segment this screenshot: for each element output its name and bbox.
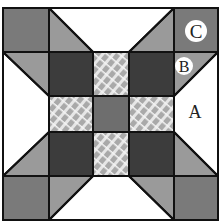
label-a: A	[189, 102, 202, 122]
plaid-square-left	[49, 96, 93, 132]
dark-square-tr	[129, 52, 174, 96]
corner-square-tl	[3, 8, 49, 52]
label-b: B	[179, 58, 190, 75]
dark-square-tl	[49, 52, 93, 96]
corner-square-br	[174, 176, 218, 220]
plaid-square-top	[93, 52, 129, 96]
dark-square-br	[129, 132, 174, 176]
center-square	[93, 96, 129, 132]
label-c: C	[190, 21, 203, 42]
dark-square-bl	[49, 132, 93, 176]
plaid-square-bottom	[93, 132, 129, 176]
plaid-square-right	[129, 96, 174, 132]
corner-square-bl	[3, 176, 49, 220]
quilt-block-diagram: C B A	[0, 0, 222, 224]
